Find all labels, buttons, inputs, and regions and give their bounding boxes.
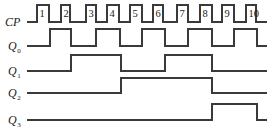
signal-label-q3: Q3 xyxy=(8,113,21,129)
signal-label-q1: Q1 xyxy=(8,64,21,80)
pulse-number-5: 5 xyxy=(133,8,138,19)
pulse-number-4: 4 xyxy=(110,8,116,19)
waveforms xyxy=(27,5,267,120)
pulse-number-8: 8 xyxy=(203,8,208,19)
pulse-number-6: 6 xyxy=(156,8,161,19)
pulse-number-7: 7 xyxy=(180,8,185,19)
signal-label-subscript: 1 xyxy=(17,72,21,80)
signal-label-cp: CP xyxy=(5,15,21,29)
timing-diagram: CPQ0Q1Q2Q3 12345678910 xyxy=(0,0,274,133)
pulse-number-10: 10 xyxy=(249,8,260,19)
pulse-number-9: 9 xyxy=(225,8,230,19)
signal-label-q0: Q0 xyxy=(8,39,21,55)
waveform-q1 xyxy=(27,55,267,71)
pulse-number-3: 3 xyxy=(89,8,94,19)
signal-labels: CPQ0Q1Q2Q3 xyxy=(5,15,21,129)
pulse-number-1: 1 xyxy=(40,8,45,19)
waveform-q3 xyxy=(27,104,267,120)
pulse-number-2: 2 xyxy=(64,8,69,19)
signal-label-subscript: 2 xyxy=(17,94,21,102)
signal-label-subscript: 3 xyxy=(17,121,21,129)
waveform-q2 xyxy=(27,78,267,93)
waveform-q0 xyxy=(27,29,267,46)
signal-label-subscript: 0 xyxy=(17,47,21,55)
clock-pulse-numbers: 12345678910 xyxy=(40,8,260,19)
signal-label-q2: Q2 xyxy=(8,86,21,102)
